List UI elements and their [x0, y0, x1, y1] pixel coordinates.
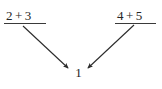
arrow-right-to-result	[88, 25, 134, 68]
result-value: 1	[72, 66, 85, 79]
figure-canvas: 2+3 4+5 1	[0, 0, 162, 89]
arrow-left-to-result	[23, 26, 68, 68]
